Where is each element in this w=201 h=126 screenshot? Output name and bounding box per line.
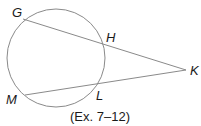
caption: (Ex. 7–12) bbox=[70, 109, 130, 124]
label-K: K bbox=[190, 63, 200, 78]
label-H: H bbox=[106, 30, 116, 45]
circle bbox=[7, 9, 105, 107]
secant-MK bbox=[25, 70, 186, 95]
label-L: L bbox=[96, 88, 103, 103]
label-G: G bbox=[12, 5, 22, 20]
label-M: M bbox=[6, 92, 17, 107]
secant-diagram: G H K L M (Ex. 7–12) bbox=[0, 0, 201, 126]
